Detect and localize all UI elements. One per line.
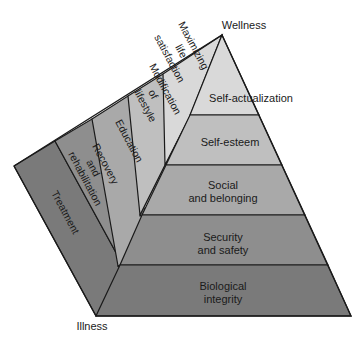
front-label-self-actualization: Self-actualization xyxy=(209,92,293,104)
front-label-biological-2: integrity xyxy=(204,293,243,305)
front-label-biological-1: Biological xyxy=(199,280,246,292)
front-label-security-1: Security xyxy=(203,231,243,243)
front-label-self-esteem: Self-esteem xyxy=(201,136,260,148)
front-label-security-2: and safety xyxy=(198,244,249,256)
front-label-social-2: and belonging xyxy=(188,192,257,204)
wellness-label: Wellness xyxy=(222,19,267,31)
illness-label: Illness xyxy=(76,320,108,332)
health-pyramid-diagram: Wellness Illness Self-actualization Self… xyxy=(0,0,362,338)
front-label-social-1: Social xyxy=(208,179,238,191)
